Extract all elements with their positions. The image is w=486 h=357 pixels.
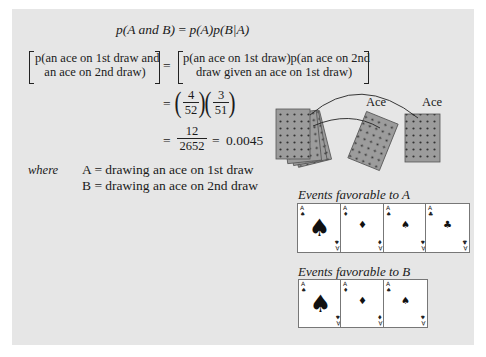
definition-a: A = drawing an ace on 1st draw [82, 162, 253, 178]
result-value: 0.0045 [226, 133, 263, 149]
first-ace-card-back [348, 111, 398, 170]
left-bracket-close [155, 51, 160, 84]
general-formula: p(A and B) = p(A)p(B|A) [116, 22, 249, 38]
bracket-lhs: p(an ace on 1st draw and an ace on 2nd d… [35, 51, 155, 79]
fraction-4-52: 4 52 [183, 88, 199, 117]
bracket-eq: = [163, 58, 171, 74]
step2-eq: = [163, 133, 171, 149]
card-ace-clubs-a: A♣ ♣ A♣ [425, 203, 470, 253]
card-ace-spades-b: A♠ ♠ A♠ [298, 279, 343, 328]
definition-b: B = drawing an ace on 2nd draw [82, 178, 258, 194]
paren-open-2: ( [205, 87, 212, 117]
spade-icon: ♠ [384, 295, 427, 306]
events-b-title: Events favorable to B [298, 264, 410, 280]
spade-icon: ♠ [384, 219, 427, 230]
paren-close-2: ) [229, 87, 236, 117]
left-bracket-open [29, 51, 34, 84]
paren-open-1: ( [175, 87, 182, 117]
general-rhs: p(A)p(B|A) [189, 22, 249, 37]
card-ace-diamonds-a: A♦ ♦ A♦ [340, 203, 385, 253]
bracket-rhs-line1: p(an ace on 1st draw)p(an ace on 2nd [183, 51, 365, 65]
card-ace-spades-small-a: A♠ ♠ A♠ [383, 203, 428, 253]
second-ace-card-back [405, 114, 440, 162]
diamond-icon: ♦ [341, 219, 384, 230]
fraction-3-51: 3 51 [213, 88, 229, 117]
bracket-rhs-line2: draw given an ace on 1st draw) [183, 65, 365, 79]
fraction-12-2652: 12 2652 [177, 124, 207, 153]
where-label: where [28, 163, 58, 178]
step2-eq2: = [212, 133, 220, 149]
general-eq: = [178, 22, 186, 37]
ace-label-1: Ace [366, 95, 386, 110]
bracket-rhs: p(an ace on 1st draw)p(an ace on 2nd dra… [183, 51, 365, 79]
club-icon: ♣ [426, 219, 469, 230]
card-ace-spades-a: A♠ ♠ A♠ [297, 203, 342, 253]
bracket-lhs-line1: p(an ace on 1st draw and [35, 51, 155, 65]
deck-stack-icon [276, 109, 332, 167]
bracket-lhs-line2: an ace on 2nd draw) [35, 65, 155, 79]
ace-label-2: Ace [422, 95, 442, 110]
spade-icon: ♠ [298, 214, 341, 242]
card-ace-diamonds-b: A♦ ♦ A♦ [340, 279, 385, 328]
draw-arc-2 [310, 94, 418, 118]
step1-eq: = [163, 96, 171, 112]
card-ace-spades-small-b: A♠ ♠ A♠ [383, 279, 428, 328]
right-bracket-close [364, 51, 369, 84]
events-a-title: Events favorable to A [298, 187, 410, 203]
diamond-icon: ♦ [341, 295, 384, 306]
general-lhs: p(A and B) [116, 22, 175, 37]
